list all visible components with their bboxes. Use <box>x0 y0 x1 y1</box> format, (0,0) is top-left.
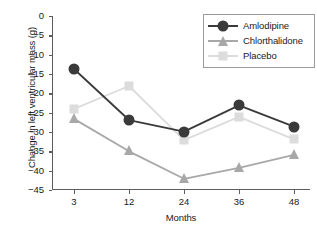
data-point-chlorthalidone-24 <box>179 173 189 183</box>
x-tick-label: 48 <box>274 196 314 207</box>
y-tick-label: −45 <box>10 185 44 195</box>
data-point-amlodipine-24 <box>179 126 190 137</box>
x-tick-mark <box>294 190 295 194</box>
legend-label: Placebo <box>238 50 277 61</box>
y-tick-label: −25 <box>10 108 44 118</box>
data-point-amlodipine-48 <box>289 121 300 132</box>
x-tick-mark <box>74 190 75 194</box>
y-tick-mark <box>49 190 53 191</box>
legend-label: Amlodipine <box>238 20 289 31</box>
chart-legend: AmlodipineChlorthalidonePlacebo <box>203 14 315 68</box>
x-axis-title: Months <box>52 212 310 223</box>
legend-marker-square-icon <box>219 51 228 60</box>
legend-swatch <box>208 34 238 47</box>
y-tick-label: −35 <box>10 146 44 156</box>
legend-marker-triangle-icon <box>218 36 228 46</box>
y-tick-label: −5 <box>10 30 44 40</box>
data-point-chlorthalidone-3 <box>69 113 79 123</box>
legend-item-amlodipine[interactable]: Amlodipine <box>204 18 314 33</box>
y-tick-label: 0 <box>10 11 44 21</box>
x-tick-mark <box>129 190 130 194</box>
legend-swatch <box>208 49 238 62</box>
y-tick-label: −40 <box>10 166 44 176</box>
x-tick-label: 24 <box>164 196 204 207</box>
data-point-placebo-48 <box>290 135 299 144</box>
legend-marker-circle-icon <box>218 20 229 31</box>
legend-label: Chlorthalidone <box>238 35 303 46</box>
data-point-chlorthalidone-36 <box>234 162 244 172</box>
y-tick-label: −10 <box>10 50 44 60</box>
data-point-chlorthalidone-48 <box>289 149 299 159</box>
data-point-amlodipine-3 <box>69 63 80 74</box>
data-point-placebo-12 <box>125 81 134 90</box>
x-tick-mark <box>239 190 240 194</box>
data-point-placebo-36 <box>235 112 244 121</box>
x-tick-label: 36 <box>219 196 259 207</box>
data-point-chlorthalidone-12 <box>124 145 134 155</box>
legend-item-chlorthalidone[interactable]: Chlorthalidone <box>204 33 314 48</box>
chart-figure: Change in left ventricular mass (g) 0−5−… <box>0 0 317 230</box>
line-amlodipine <box>74 69 294 132</box>
y-tick-label: −30 <box>10 127 44 137</box>
x-tick-mark <box>184 190 185 194</box>
legend-item-placebo[interactable]: Placebo <box>204 48 314 63</box>
data-point-amlodipine-36 <box>234 100 245 111</box>
y-tick-label: −15 <box>10 69 44 79</box>
x-tick-label: 3 <box>54 196 94 207</box>
legend-swatch <box>208 19 238 32</box>
data-point-amlodipine-12 <box>124 115 135 126</box>
x-tick-label: 12 <box>109 196 149 207</box>
y-tick-label: −20 <box>10 88 44 98</box>
